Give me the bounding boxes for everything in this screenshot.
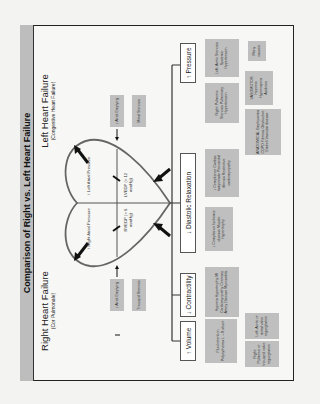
pressure-right-box: Right: Pulmonic Stenosis Pulmonary Hyper… [205,83,239,123]
volume-causes-box: Fluid retention Polycythemia L→R shunt [205,319,237,363]
left-atrial-pressure: ↑ Left Atrial Pressure [86,154,91,198]
pressure-left-box: Left: Aortic Stenosis Systemic Hypertens… [205,39,239,77]
pressure-box: ↑ Pressure [180,43,196,83]
left-atrial-emptying-box: ↓ Atrial Emptying [110,95,124,127]
diastolic-causes-2-box: ↓ Compliance Cardiac tamponade Pericardi… [205,149,239,197]
diastolic-causes-1-box: ↓ Compliance Ischemic disease Muscle Hyp… [205,207,233,251]
rvedp-label: RVEDP (> 6 mmHg) [123,205,133,235]
vasomotor-box: VASOMOTOR Hypoxia Hypercapnia Acidosis [245,71,273,105]
right-atrial-emptying-box: ↓ Atrial Emptying [110,279,124,311]
volume-box: ↑ Volume [180,321,196,361]
many-causes-box: Many causes [248,41,266,61]
diagram-canvas: Comparison of Right vs. Left Heart Failu… [20,25,294,381]
volume-right-regurg-box: Right: Pulmonic or tricuspid valve regur… [245,341,279,367]
tricuspid-stenosis-box: Tricuspid Stenosis [132,279,146,311]
contractility-causes-box: Hypoxia Hypertrophy MI Cardiomyopathy Co… [205,267,239,317]
right-atrial-pressure: ↑ Right Atrial Pressure [86,207,91,251]
volume-left-regurg-box: Left: Aortic or mitral valve regurgitati… [245,313,279,339]
mitral-stenosis-box: Mitral Stenosis [132,95,146,127]
lvedp-label: LVEDP (> 12 mmHg) [123,170,133,200]
diastolic-relaxation-box: ↓ Diastolic Relaxation [180,153,196,253]
contractility-box: ↓ Contractility [180,273,196,317]
anatomical-box: ANATOMICAL Emphysema COPD Fibrosis Obstr… [245,109,281,155]
